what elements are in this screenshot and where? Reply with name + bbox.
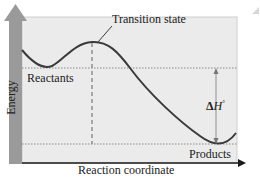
reactants-label: Reactants	[27, 71, 74, 86]
edge-arrow-icon	[252, 7, 259, 14]
delta-h-label: ΔH°	[206, 99, 225, 114]
x-axis-label: Reaction coordinate	[78, 163, 174, 178]
plot-area	[22, 17, 237, 163]
standard-state-symbol: °	[222, 99, 225, 107]
y-axis-label: Energy	[4, 80, 19, 114]
transition-state-label: Transition state	[112, 12, 186, 27]
x-axis-arrow-icon	[238, 159, 246, 167]
enthalpy-symbol: H	[214, 99, 223, 113]
energy-diagram: Transition state Reactants Products ΔH° …	[0, 0, 260, 181]
delta-symbol: Δ	[206, 99, 214, 113]
y-axis-arrow-icon	[4, 4, 27, 21]
products-label: Products	[189, 147, 231, 162]
